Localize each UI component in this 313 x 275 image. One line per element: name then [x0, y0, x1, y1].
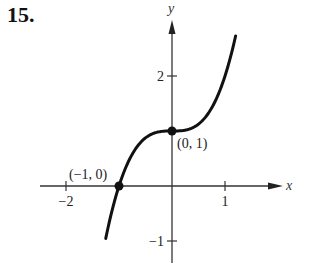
x-tick-label: 1: [222, 194, 229, 209]
point-label: (0, 1): [177, 136, 208, 152]
point-marker: [168, 127, 177, 136]
y-axis-arrow-icon: [169, 20, 176, 34]
cubic-graph: xy−212−1(−1, 0)(0, 1): [0, 0, 313, 275]
cubic-curve: [106, 36, 236, 238]
x-axis-arrow-icon: [268, 183, 283, 190]
point-marker: [115, 182, 124, 191]
y-tick-label: 2: [157, 69, 164, 84]
y-tick-label: −1: [149, 234, 164, 249]
x-tick-label: −2: [59, 194, 74, 209]
x-axis-label: x: [285, 178, 293, 193]
point-label: (−1, 0): [69, 167, 108, 183]
y-axis-label: y: [166, 1, 175, 16]
